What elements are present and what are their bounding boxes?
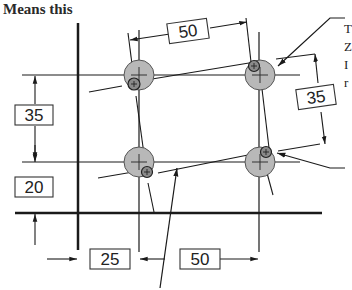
deviated-extension-lines: [89, 18, 320, 212]
hole-top-left: [124, 60, 154, 90]
hole-bottom-right: [245, 147, 275, 178]
dim-right-spacing-value: 35: [305, 87, 326, 108]
dim-top-spacing: 50: [130, 18, 247, 43]
dim-left-offset-value: 20: [25, 178, 44, 197]
dim-bottom-spacing: 50: [180, 249, 258, 269]
dim-bottom-offset: 25: [47, 249, 165, 269]
datum-lines: [15, 23, 322, 250]
dim-top-spacing-value: 50: [177, 21, 198, 42]
dim-left-spacing-value: 35: [25, 106, 44, 125]
dim-bottom-spacing-value: 50: [191, 250, 210, 269]
hole-top-right: [245, 60, 275, 90]
hole-bottom-left: [124, 147, 154, 178]
dim-left-offset: 20: [15, 145, 53, 245]
dim-left-spacing: 35: [15, 76, 53, 160]
dim-bottom-offset-value: 25: [101, 250, 120, 269]
dim-right-spacing: 35: [296, 54, 336, 144]
